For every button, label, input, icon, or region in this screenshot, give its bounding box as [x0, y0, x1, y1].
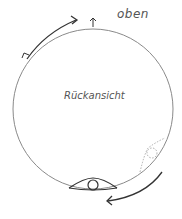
up-arrow-icon: [90, 18, 96, 27]
rotation-arrow-top-left-icon: [22, 16, 77, 59]
diagram-canvas: [0, 0, 182, 219]
label-top: oben: [117, 7, 149, 21]
main-circle: [13, 29, 173, 189]
label-center: Rückansicht: [64, 90, 125, 101]
eye-icon: [69, 178, 117, 190]
eye-dotted-icon: [140, 138, 165, 172]
